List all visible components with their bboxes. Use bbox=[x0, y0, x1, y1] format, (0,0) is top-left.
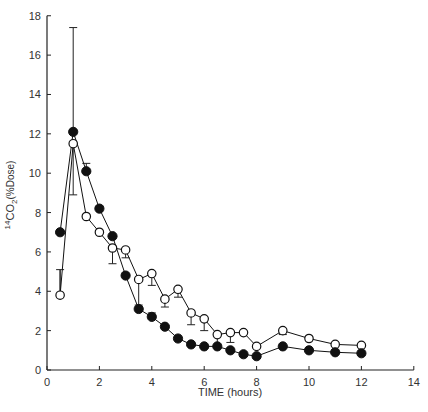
filled-circle-marker bbox=[147, 312, 156, 321]
series-markers bbox=[56, 127, 367, 361]
y-label-main: CO bbox=[4, 204, 16, 221]
filled-circle-marker bbox=[69, 127, 78, 136]
open-circle-marker bbox=[213, 330, 221, 338]
y-axis-label: 14CO2(%Dose) bbox=[3, 161, 19, 230]
filled-circle-marker bbox=[200, 342, 209, 351]
filled-circle-marker bbox=[226, 346, 235, 355]
axes: 02468101214024681012141618 bbox=[29, 10, 420, 388]
open-circle-marker bbox=[252, 342, 260, 350]
filled-circle-marker bbox=[252, 352, 261, 361]
filled-circle-marker bbox=[56, 228, 65, 237]
filled-circle-marker bbox=[95, 204, 104, 213]
y-tick-label: 16 bbox=[29, 49, 41, 61]
x-tick-label: 14 bbox=[408, 376, 420, 388]
x-axis-label: TIME (hours) bbox=[198, 386, 262, 398]
y-tick-label: 14 bbox=[29, 88, 41, 100]
open-circle-marker bbox=[95, 228, 103, 236]
filled-circle-marker bbox=[134, 304, 143, 313]
open-circle-marker bbox=[226, 328, 234, 336]
open-circle-marker bbox=[148, 269, 156, 277]
open-circle-marker bbox=[108, 244, 116, 252]
open-circle-marker bbox=[174, 285, 182, 293]
open-series-line bbox=[60, 144, 361, 347]
y-tick-label: 8 bbox=[35, 207, 41, 219]
filled-circle-marker bbox=[121, 271, 130, 280]
y-tick-label: 12 bbox=[29, 128, 41, 140]
filled-circle-marker bbox=[278, 342, 287, 351]
y-tick-label: 6 bbox=[35, 246, 41, 258]
series-lines bbox=[60, 132, 361, 356]
filled-circle-marker bbox=[160, 322, 169, 331]
x-tick-label: 12 bbox=[355, 376, 367, 388]
x-tick-label: 0 bbox=[44, 376, 50, 388]
filled-circle-marker bbox=[187, 340, 196, 349]
filled-circle-marker bbox=[331, 348, 340, 357]
open-circle-marker bbox=[121, 246, 129, 254]
open-circle-marker bbox=[56, 291, 64, 299]
y-tick-label: 18 bbox=[29, 10, 41, 22]
x-tick-label: 4 bbox=[149, 376, 155, 388]
y-label-rest: (%Dose) bbox=[5, 161, 16, 200]
x-tick-label: 2 bbox=[96, 376, 102, 388]
y-tick-label: 0 bbox=[35, 364, 41, 376]
open-circle-marker bbox=[161, 295, 169, 303]
chart-canvas: 02468101214024681012141618 TIME (hours) … bbox=[0, 0, 428, 412]
filled-circle-marker bbox=[82, 167, 91, 176]
open-circle-marker bbox=[279, 326, 287, 334]
open-circle-marker bbox=[305, 334, 313, 342]
filled-circle-marker bbox=[357, 349, 366, 358]
filled-circle-marker bbox=[239, 350, 248, 359]
y-tick-label: 2 bbox=[35, 325, 41, 337]
x-tick-label: 10 bbox=[303, 376, 315, 388]
open-circle-marker bbox=[200, 315, 208, 323]
open-circle-marker bbox=[69, 139, 77, 147]
open-circle-marker bbox=[239, 328, 247, 336]
filled-circle-marker bbox=[108, 232, 117, 241]
filled-circle-marker bbox=[304, 346, 313, 355]
filled-circle-marker bbox=[213, 342, 222, 351]
error-bars bbox=[56, 28, 287, 345]
y-tick-label: 4 bbox=[35, 285, 41, 297]
filled-circle-marker bbox=[173, 334, 182, 343]
y-tick-label: 10 bbox=[29, 167, 41, 179]
open-circle-marker bbox=[82, 212, 90, 220]
open-circle-marker bbox=[187, 309, 195, 317]
open-circle-marker bbox=[135, 275, 143, 283]
filled-series-line bbox=[60, 132, 361, 356]
